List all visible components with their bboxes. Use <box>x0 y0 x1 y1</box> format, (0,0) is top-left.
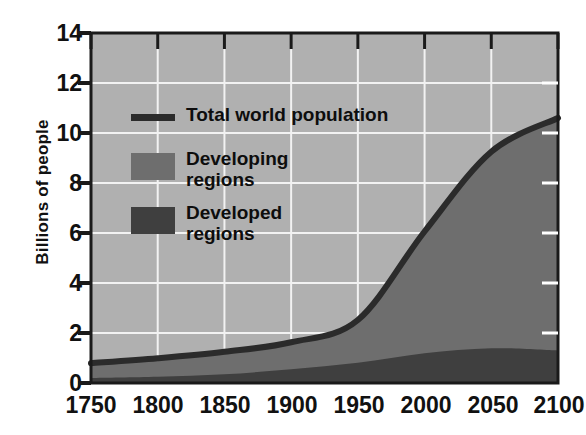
legend-marker-developing-regions <box>131 153 175 180</box>
legend-label-developed-regions: Developed regions <box>186 202 282 244</box>
legend-marker-developed-regions <box>131 207 175 234</box>
legend-marker-total-world-population <box>131 114 175 121</box>
plot-area <box>0 0 586 435</box>
legend-label-developing-regions: Developing regions <box>186 148 288 190</box>
population-area-chart: Billions of people 14 12 10 8 6 4 2 0 17… <box>0 0 586 435</box>
legend-label-total-world-population: Total world population <box>186 104 388 125</box>
